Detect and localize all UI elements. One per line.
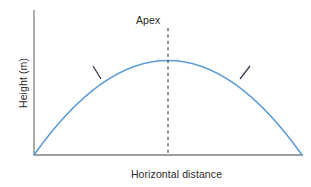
apex-label: Apex — [136, 14, 160, 26]
x-axis-label: Horizontal distance — [0, 168, 311, 180]
projectile-trajectory-figure: Apex Horizontal distance Height (m) — [0, 0, 311, 187]
plot-area — [0, 0, 311, 187]
velocity-tick-left-icon — [93, 66, 101, 79]
y-axis-label: Height (m) — [17, 43, 29, 123]
velocity-tick-right-icon — [240, 66, 250, 79]
